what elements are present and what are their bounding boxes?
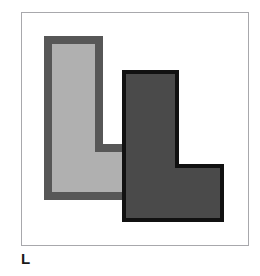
- dark-l-polyomino: [124, 72, 222, 220]
- figure-stage: L: [0, 0, 260, 276]
- figure-label: L: [21, 250, 30, 268]
- shape-canvas: [0, 0, 260, 276]
